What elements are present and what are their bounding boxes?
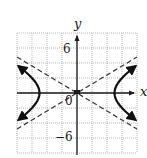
y-tick-label-6: 6 xyxy=(63,42,71,56)
hyperbola-graph: y x 6 −6 0 xyxy=(0,0,147,158)
axis-labels: y x 6 −6 0 xyxy=(55,16,147,144)
y-tick-label-neg6: −6 xyxy=(55,130,73,144)
y-axis-label: y xyxy=(73,16,82,31)
origin-marker xyxy=(74,90,80,94)
axes xyxy=(17,36,134,155)
x-axis-label: x xyxy=(140,84,147,99)
origin-label: 0 xyxy=(65,94,73,108)
